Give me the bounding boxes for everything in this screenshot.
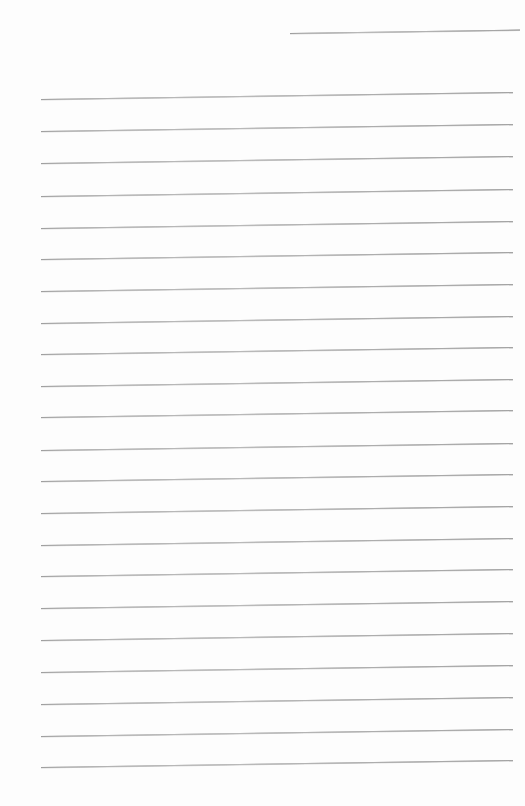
notepad-page: Blank Ruled Writing Paper xyxy=(0,0,525,806)
paper-surface xyxy=(0,0,525,806)
